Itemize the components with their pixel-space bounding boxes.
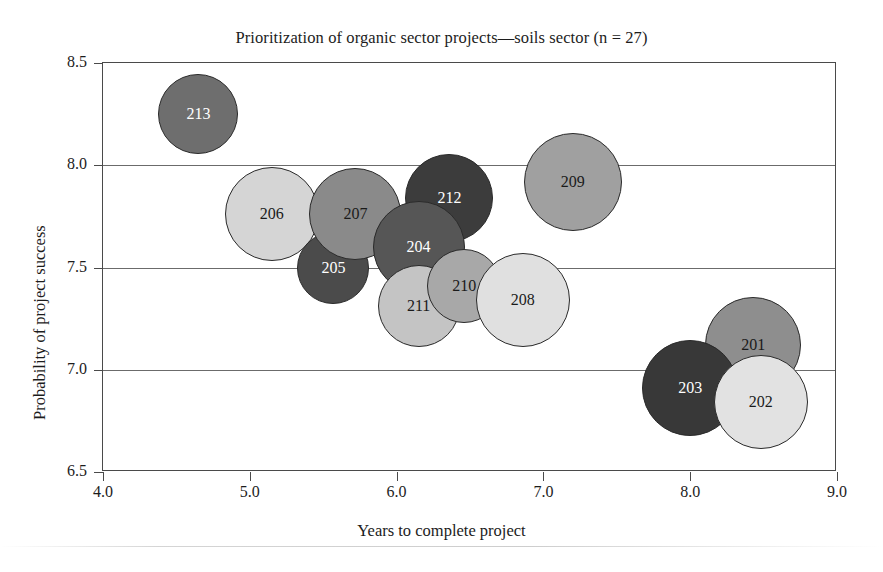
x-tick-5.0	[250, 472, 251, 481]
figure: Prioritization of organic sector project…	[0, 0, 883, 572]
bubble-label-209: 209	[561, 174, 585, 190]
x-tick-4.0	[103, 472, 104, 481]
bubble-202[interactable]: 202	[714, 355, 808, 449]
bubble-208[interactable]: 208	[476, 253, 570, 347]
y-tick-6.5	[94, 472, 103, 473]
scan-edge-artifact	[0, 546, 883, 547]
x-axis-title: Years to complete project	[0, 521, 883, 541]
bubble-label-207: 207	[343, 206, 367, 222]
x-tick-label-9.0: 9.0	[807, 483, 867, 501]
x-tick-label-7.0: 7.0	[513, 483, 573, 501]
bubble-label-205: 205	[321, 260, 345, 276]
x-tick-7.0	[543, 472, 544, 481]
bubble-label-213: 213	[186, 106, 210, 122]
x-tick-label-5.0: 5.0	[220, 483, 280, 501]
y-tick-8.0	[94, 165, 103, 166]
x-tick-8.0	[690, 472, 691, 481]
bubble-label-208: 208	[511, 292, 535, 308]
bubble-label-212: 212	[437, 190, 461, 206]
x-tick-label-4.0: 4.0	[73, 483, 133, 501]
bubble-label-206: 206	[260, 206, 284, 222]
bubble-label-210: 210	[452, 278, 476, 294]
y-tick-8.5	[94, 63, 103, 64]
x-tick-9.0	[837, 472, 838, 481]
y-tick-label-8.5: 8.5	[27, 53, 87, 71]
plot-area: 6.57.07.58.08.54.05.06.07.08.09.02132062…	[102, 62, 836, 471]
y-tick-7.5	[94, 268, 103, 269]
bubble-label-202: 202	[749, 394, 773, 410]
bubble-label-203: 203	[678, 380, 702, 396]
y-tick-label-6.5: 6.5	[27, 462, 87, 480]
bubble-label-211: 211	[407, 298, 430, 314]
x-tick-6.0	[397, 472, 398, 481]
bubble-213[interactable]: 213	[158, 74, 238, 154]
x-tick-label-6.0: 6.0	[367, 483, 427, 501]
x-tick-label-8.0: 8.0	[660, 483, 720, 501]
bubble-label-201: 201	[741, 337, 765, 353]
y-tick-label-8.0: 8.0	[27, 155, 87, 173]
chart-title: Prioritization of organic sector project…	[0, 28, 883, 48]
y-axis-title: Probability of project success	[30, 225, 50, 420]
bubble-209[interactable]: 209	[524, 133, 622, 231]
y-tick-7.0	[94, 370, 103, 371]
bubble-label-204: 204	[407, 239, 431, 255]
